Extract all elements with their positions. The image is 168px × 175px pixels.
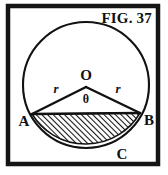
point-label-b: B [144, 112, 154, 128]
center-point-label: O [80, 67, 92, 83]
angle-theta-label: θ [83, 92, 89, 106]
chord-line-ab [32, 113, 140, 114]
figure-caption: FIG. 37 [101, 10, 152, 26]
point-label-c: C [117, 146, 128, 162]
point-label-a: A [19, 113, 30, 129]
geometry-diagram: FIG. 37 O θ r r A B C [0, 0, 168, 175]
figure-container: FIG. 37 O θ r r A B C [0, 0, 168, 175]
